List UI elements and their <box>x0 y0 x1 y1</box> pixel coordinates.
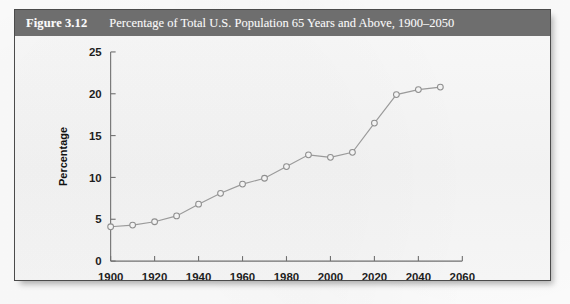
data-point-marker <box>196 201 202 207</box>
x-tick-label: 1960 <box>230 271 255 280</box>
x-axis: 190019201940196019802000202020402060 <box>98 256 475 280</box>
data-point-marker <box>218 190 224 196</box>
x-tick-label: 2060 <box>450 271 475 280</box>
data-point-marker <box>437 84 443 90</box>
data-point-marker <box>350 149 356 155</box>
data-point-marker <box>306 152 312 158</box>
data-point-marker <box>415 87 421 93</box>
figure-caption-text: Percentage of Total U.S. Population 65 Y… <box>109 16 454 31</box>
y-tick-label: 0 <box>95 255 101 267</box>
x-tick-label: 2020 <box>362 271 387 280</box>
data-point-marker <box>240 181 246 187</box>
series-markers <box>108 84 443 229</box>
x-tick-label: 2040 <box>406 271 431 280</box>
data-series-population-65-plus <box>108 84 443 229</box>
y-axis-tick-labels: 0510152025 <box>89 46 102 267</box>
figure-box: Figure 3.12 Percentage of Total U.S. Pop… <box>14 9 551 281</box>
data-point-marker <box>174 213 180 219</box>
figure-caption-band: Figure 3.12 Percentage of Total U.S. Pop… <box>15 10 550 37</box>
data-point-marker <box>108 224 114 230</box>
x-axis-ticks <box>111 256 463 261</box>
x-tick-label: 1940 <box>186 271 211 280</box>
x-tick-label: 1900 <box>98 271 123 280</box>
scanned-page-background: Figure 3.12 Percentage of Total U.S. Pop… <box>0 0 570 304</box>
data-point-marker <box>393 92 399 98</box>
data-point-marker <box>262 175 268 181</box>
series-line-path <box>111 87 441 227</box>
x-tick-label: 1920 <box>142 271 167 280</box>
data-point-marker <box>152 219 158 225</box>
x-axis-tick-labels: 190019201940196019802000202020402060 <box>98 271 475 280</box>
data-point-marker <box>130 222 136 228</box>
y-tick-label: 5 <box>95 213 102 225</box>
line-chart: 0510152025 Percentage 190019201940196019… <box>15 36 550 280</box>
y-axis-title: Percentage <box>57 127 69 186</box>
data-point-marker <box>284 164 290 170</box>
data-point-marker <box>372 120 378 126</box>
data-point-marker <box>328 154 334 160</box>
x-tick-label: 1980 <box>274 271 299 280</box>
y-axis: 0510152025 Percentage <box>57 46 116 267</box>
figure-number-label: Figure 3.12 <box>26 16 87 31</box>
y-tick-label: 15 <box>89 130 102 142</box>
y-tick-label: 20 <box>89 88 102 100</box>
y-tick-label: 10 <box>89 172 102 184</box>
y-tick-label: 25 <box>89 46 102 58</box>
x-tick-label: 2000 <box>318 271 343 280</box>
chart-plot-area: 0510152025 Percentage 190019201940196019… <box>15 36 550 280</box>
